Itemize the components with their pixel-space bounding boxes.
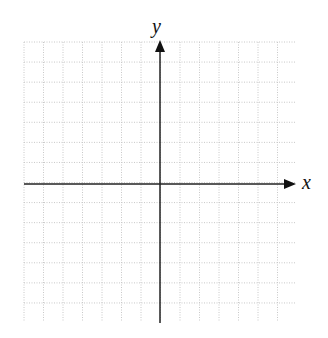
y-axis-label: y: [152, 16, 161, 36]
x-axis-arrow-icon: [284, 179, 296, 189]
coordinate-plane: [0, 0, 328, 338]
x-axis-label: x: [302, 172, 311, 192]
